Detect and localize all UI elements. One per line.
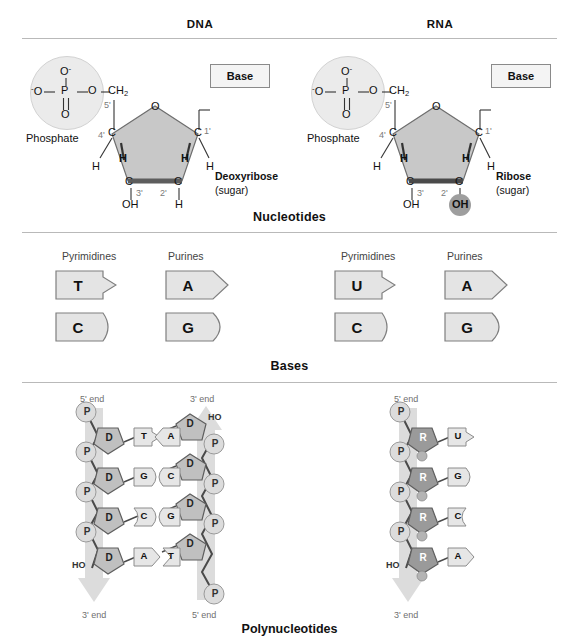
base-token-thymine: T bbox=[55, 270, 117, 300]
rna-base-2: G bbox=[450, 470, 466, 481]
rna-sugar-4: R bbox=[417, 552, 429, 563]
carbon-1prime-label-dna: 1' bbox=[204, 126, 211, 136]
carbon-2prime-label-rna: 2' bbox=[441, 188, 448, 198]
carbon-1prime-dna: C bbox=[194, 126, 202, 138]
section-label-polynucleotides: Polynucleotides bbox=[0, 622, 579, 636]
dna-right-sugar-3: D bbox=[184, 498, 196, 509]
divider-after-bases bbox=[22, 382, 557, 383]
dna-left-sugar-1: D bbox=[103, 432, 115, 443]
hydrogen-c1prime-dna: H bbox=[181, 152, 189, 164]
phosphate-top-oxygen-rna: O- bbox=[341, 64, 352, 77]
dna-right-phosphate-2: P bbox=[209, 478, 221, 489]
dna-left-base-1: T bbox=[136, 430, 152, 441]
ring-oxygen-dna: O bbox=[151, 100, 160, 112]
hydrogen-c1prime-rna: H bbox=[462, 152, 470, 164]
rna-sugar-1: R bbox=[417, 432, 429, 443]
base-token-adenine-dna: A bbox=[165, 270, 229, 300]
carbon-2prime-dna: C bbox=[174, 175, 182, 187]
hydrogen-c4prime-outer-rna: H bbox=[373, 160, 381, 172]
carbon-5prime-label-rna: 5' bbox=[385, 100, 392, 110]
ring-oxygen-rna: O bbox=[432, 100, 441, 112]
carbon-5prime-label-dna: 5' bbox=[104, 100, 111, 110]
carbon-3prime-rna: C bbox=[406, 175, 414, 187]
figure-root: DNA RNA bbox=[0, 0, 579, 640]
dna-right-terminal-hydroxyl: HO bbox=[208, 412, 222, 422]
bases-rna: Pyrimidines Purines U A C G bbox=[289, 246, 579, 356]
dna-left-phosphate-3: P bbox=[81, 486, 93, 497]
rna-base-4: A bbox=[450, 550, 466, 561]
rna-base-3: C bbox=[450, 510, 466, 521]
carbon-4prime-rna: C bbox=[389, 126, 397, 138]
c2prime-group-dna: H bbox=[175, 198, 183, 210]
dna-left-base-4: A bbox=[136, 550, 152, 561]
pyrimidines-label-dna: Pyrimidines bbox=[62, 250, 116, 262]
ch2-group-dna: CH2 bbox=[108, 84, 128, 98]
hydrogen-c4prime-dna: H bbox=[119, 152, 127, 164]
carbon-3prime-label-rna: 3' bbox=[417, 188, 424, 198]
base-token-guanine-rna: G bbox=[444, 312, 508, 342]
pyrimidines-label-rna: Pyrimidines bbox=[341, 250, 395, 262]
base-token-label: C bbox=[334, 319, 380, 336]
base-token-label: T bbox=[55, 277, 101, 294]
rna-sugar-3: R bbox=[417, 512, 429, 523]
bases-dna: Pyrimidines Purines T A C bbox=[0, 246, 289, 356]
section-label-nucleotides: Nucleotides bbox=[0, 210, 579, 224]
dna-left-phosphate-4: P bbox=[81, 526, 93, 537]
base-token-label: A bbox=[444, 277, 490, 294]
dna-left-phosphate-1: P bbox=[81, 406, 93, 417]
carbon-4prime-label-rna: 4' bbox=[379, 130, 386, 140]
base-box-dna: Base bbox=[210, 64, 270, 88]
rna-terminal-hydroxyl: HO bbox=[386, 560, 400, 570]
sugar-qualifier-rna: (sugar) bbox=[496, 184, 529, 196]
hydrogen-c4prime-outer-dna: H bbox=[92, 160, 100, 172]
base-token-guanine-dna: G bbox=[165, 312, 229, 342]
dna-right-sugar-1: D bbox=[184, 418, 196, 429]
rna-phosphate-1: P bbox=[395, 406, 407, 417]
rna-base-1: U bbox=[450, 430, 466, 441]
dna-left-sugar-3: D bbox=[103, 512, 115, 523]
dna-right-base-4: T bbox=[163, 550, 179, 561]
phosphate-top-oxygen-dna: O- bbox=[60, 64, 71, 77]
phosphate-right-oxygen-dna: O bbox=[88, 84, 97, 96]
dna-left-sugar-2: D bbox=[103, 472, 115, 483]
nucleotide-rna: O- -O P O O CH2 5' Phosphate O Base 4' C… bbox=[289, 48, 579, 208]
divider-top bbox=[22, 38, 557, 39]
divider-after-nucleotides bbox=[22, 232, 557, 233]
carbon-3prime-dna: C bbox=[125, 175, 133, 187]
column-title-rna: RNA bbox=[380, 18, 500, 30]
carbon-4prime-dna: C bbox=[108, 126, 116, 138]
sugar-name-dna: Deoxyribose bbox=[215, 170, 278, 182]
purines-label-dna: Purines bbox=[168, 250, 204, 262]
section-label-bases: Bases bbox=[0, 359, 579, 373]
dna-right-base-1: A bbox=[163, 430, 179, 441]
carbon-2prime-rna: C bbox=[455, 175, 463, 187]
dna-left-phosphate-2: P bbox=[81, 446, 93, 457]
phosphate-right-oxygen-rna: O bbox=[369, 84, 378, 96]
dna-right-base-3: G bbox=[163, 510, 179, 521]
rna-phosphate-3: P bbox=[395, 486, 407, 497]
base-token-adenine-rna: A bbox=[444, 270, 508, 300]
dna-right-sugar-4: D bbox=[184, 538, 196, 549]
carbon-3prime-label-dna: 3' bbox=[136, 188, 143, 198]
phosphate-bottom-oxygen-rna: O bbox=[342, 108, 351, 120]
dna-right-phosphate-1: P bbox=[209, 438, 221, 449]
sugar-qualifier-dna: (sugar) bbox=[215, 184, 248, 196]
phosphate-left-oxygen-dna: -O bbox=[31, 84, 42, 97]
base-token-cytosine-dna: C bbox=[55, 312, 117, 342]
hydrogen-c4prime-rna: H bbox=[400, 152, 408, 164]
rna-strand-graphic bbox=[289, 392, 579, 622]
rna-sugar-2: R bbox=[417, 472, 429, 483]
phosphate-center-rna: P bbox=[342, 84, 349, 96]
polynucleotide-rna: 5' end 3' end bbox=[289, 392, 579, 622]
base-token-uracil: U bbox=[334, 270, 396, 300]
dna-right-base-2: C bbox=[163, 470, 179, 481]
dna-left-base-2: G bbox=[136, 470, 152, 481]
dna-strands-graphic bbox=[0, 392, 289, 622]
purines-label-rna: Purines bbox=[447, 250, 483, 262]
carbon-1prime-label-rna: 1' bbox=[485, 126, 492, 136]
c3prime-hydroxyl-rna: OH bbox=[403, 198, 420, 210]
carbon-1prime-rna: C bbox=[475, 126, 483, 138]
phosphate-label-rna: Phosphate bbox=[307, 132, 360, 144]
dna-right-phosphate-3: P bbox=[209, 518, 221, 529]
phosphate-left-oxygen-rna: -O bbox=[312, 84, 323, 97]
